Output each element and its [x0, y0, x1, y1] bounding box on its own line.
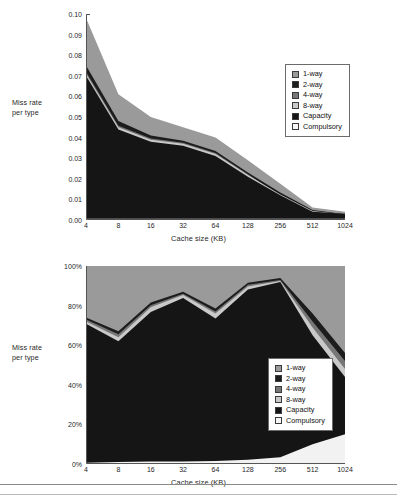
legend-item-compulsory-bottom[interactable]: Compulsory: [275, 417, 325, 425]
legend-label-8-way: 8-way: [303, 102, 322, 110]
x-tick-top-3: 32: [169, 222, 197, 229]
x-tick-bottom-3: 32: [169, 466, 197, 473]
legend-swatch-8-way-icon: [275, 396, 282, 403]
legend-bottom: 1-way 2-way 4-way 8-way Capacity: [268, 358, 333, 431]
legend-swatch-1-way-icon: [292, 71, 299, 78]
y-tick-top-3: 0.07: [50, 72, 82, 79]
legend-swatch-capacity-icon: [292, 113, 299, 120]
figure-root: Miss rate per type 0.10 0.09 0.08 0.07 0…: [0, 0, 397, 497]
x-tick-bottom-6: 256: [266, 466, 294, 473]
legend-item-2-way[interactable]: 2-way: [292, 81, 342, 89]
legend-item-4-way[interactable]: 4-way: [292, 91, 342, 99]
legend-item-8-way-bottom[interactable]: 8-way: [275, 396, 325, 404]
y-tick-bottom-80: 80%: [46, 302, 82, 309]
legend-item-1-way[interactable]: 1-way: [292, 70, 342, 78]
chart-miss-rate-absolute: Miss rate per type 0.10 0.09 0.08 0.07 0…: [0, 0, 397, 250]
y-tick-top-5: 0.05: [50, 114, 82, 121]
x-tick-top-8: 1024: [331, 222, 359, 229]
y-tick-top-8: 0.02: [50, 175, 82, 182]
divider-upper: [0, 484, 397, 485]
legend-item-1-way-bottom[interactable]: 1-way: [275, 364, 325, 372]
legend-label-8-way-bottom: 8-way: [286, 396, 305, 404]
legend-label-4-way: 4-way: [303, 91, 322, 99]
legend-swatch-compulsory-icon: [275, 417, 282, 424]
legend-label-4-way-bottom: 4-way: [286, 385, 305, 393]
legend-swatch-8-way-icon: [292, 102, 299, 109]
y-tick-bottom-60: 60%: [46, 342, 82, 349]
legend-swatch-2-way-icon: [275, 375, 282, 382]
legend-swatch-capacity-icon: [275, 407, 282, 414]
y-tick-top-7: 0.03: [50, 155, 82, 162]
y-tick-bottom-100: 100%: [46, 263, 82, 270]
legend-item-4-way-bottom[interactable]: 4-way: [275, 385, 325, 393]
x-tick-bottom-7: 512: [299, 466, 327, 473]
divider-lower: [0, 494, 397, 495]
y-tick-bottom-40: 40%: [46, 381, 82, 388]
x-tick-top-4: 64: [202, 222, 230, 229]
legend-item-2-way-bottom[interactable]: 2-way: [275, 375, 325, 383]
legend-swatch-1-way-icon: [275, 365, 282, 372]
x-tick-bottom-4: 64: [202, 466, 230, 473]
legend-top: 1-way 2-way 4-way 8-way Capacity: [285, 64, 350, 137]
legend-label-compulsory-bottom: Compulsory: [286, 417, 325, 425]
legend-label-capacity-bottom: Capacity: [286, 406, 314, 414]
x-tick-top-7: 512: [299, 222, 327, 229]
x-tick-bottom-1: 8: [104, 466, 132, 473]
y-tick-top-0: 0.10: [50, 11, 82, 18]
legend-label-capacity: Capacity: [303, 112, 331, 120]
legend-label-1-way-bottom: 1-way: [286, 364, 305, 372]
y-tick-top-2: 0.08: [50, 52, 82, 59]
chart-miss-rate-distribution: Miss rate per type 100% 80% 60% 40% 20% …: [0, 250, 397, 497]
x-axis-title-top: Cache size (KB): [0, 234, 397, 244]
legend-label-compulsory: Compulsory: [303, 123, 342, 131]
x-tick-bottom-8: 1024: [331, 466, 359, 473]
legend-label-2-way-bottom: 2-way: [286, 375, 305, 383]
x-tick-top-0: 4: [72, 222, 100, 229]
legend-label-2-way: 2-way: [303, 81, 322, 89]
x-tick-top-5: 128: [234, 222, 262, 229]
y-axis-title-bottom-line2: per type: [12, 353, 72, 363]
legend-item-capacity[interactable]: Capacity: [292, 112, 342, 120]
x-axis-title-bottom: Cache size (KB): [0, 478, 397, 488]
y-tick-top-1: 0.09: [50, 31, 82, 38]
legend-label-1-way: 1-way: [303, 70, 322, 78]
legend-swatch-4-way-icon: [292, 92, 299, 99]
legend-item-compulsory[interactable]: Compulsory: [292, 123, 342, 131]
y-tick-top-4: 0.06: [50, 93, 82, 100]
legend-swatch-2-way-icon: [292, 81, 299, 88]
legend-swatch-compulsory-icon: [292, 123, 299, 130]
x-tick-top-6: 256: [266, 222, 294, 229]
legend-list-bottom: 1-way 2-way 4-way 8-way Capacity: [269, 359, 332, 430]
x-tick-bottom-2: 16: [137, 466, 165, 473]
x-tick-bottom-5: 128: [234, 466, 262, 473]
legend-item-8-way[interactable]: 8-way: [292, 102, 342, 110]
y-tick-bottom-20: 20%: [46, 421, 82, 428]
x-tick-top-2: 16: [137, 222, 165, 229]
y-tick-top-6: 0.04: [50, 134, 82, 141]
legend-list-top: 1-way 2-way 4-way 8-way Capacity: [286, 65, 349, 136]
y-tick-top-9: 0.01: [50, 196, 82, 203]
legend-item-capacity-bottom[interactable]: Capacity: [275, 406, 325, 414]
legend-swatch-4-way-icon: [275, 386, 282, 393]
x-tick-top-1: 8: [104, 222, 132, 229]
x-tick-bottom-0: 4: [72, 466, 100, 473]
